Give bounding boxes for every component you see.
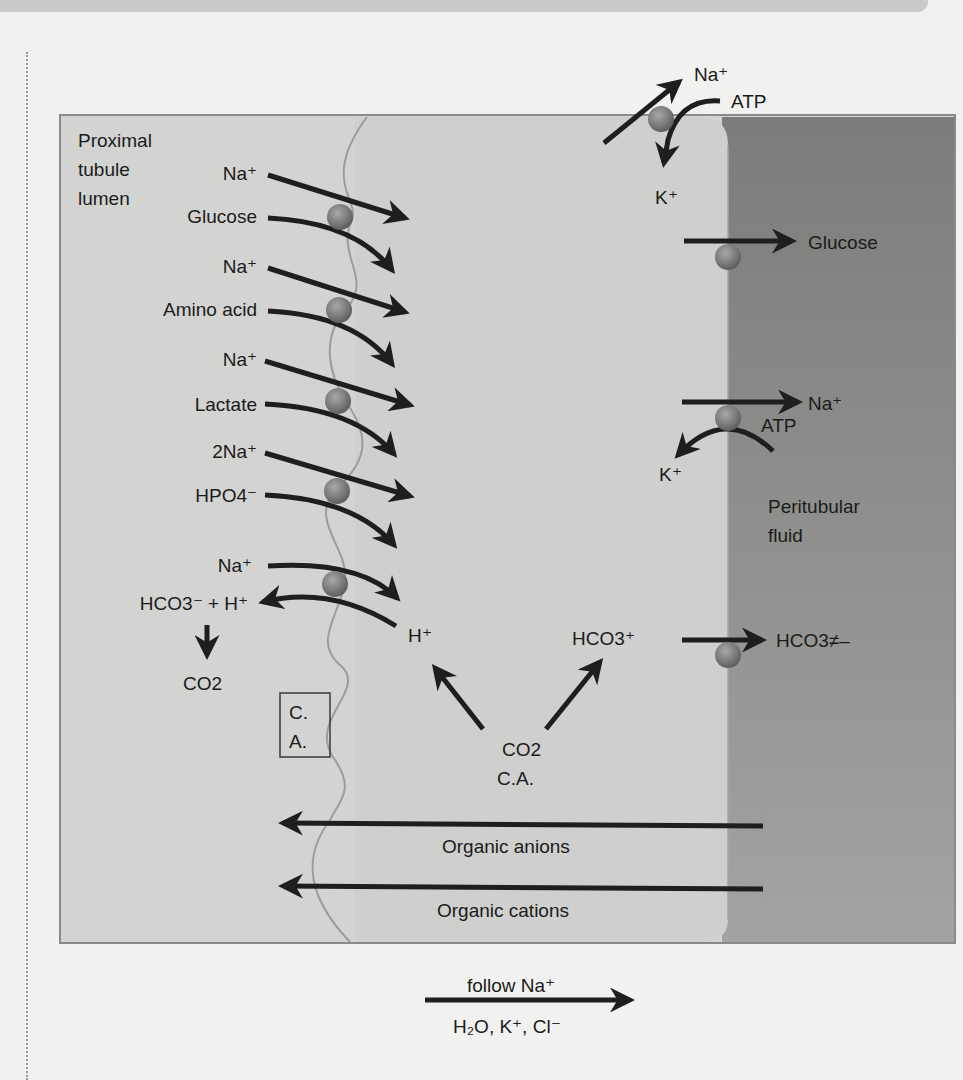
svg-text:fluid: fluid	[768, 525, 803, 546]
svg-text:Na⁺: Na⁺	[223, 256, 257, 277]
svg-text:HCO3⁺: HCO3⁺	[572, 628, 635, 649]
carrier-protein	[715, 244, 741, 270]
carrier-protein	[324, 478, 350, 504]
svg-text:Amino acid: Amino acid	[163, 299, 257, 320]
svg-text:CO2: CO2	[502, 739, 541, 760]
svg-text:H₂O, K⁺, Cl⁻: H₂O, K⁺, Cl⁻	[453, 1016, 561, 1037]
svg-text:tubule: tubule	[78, 159, 130, 180]
svg-text:ATP: ATP	[761, 415, 797, 436]
svg-text:H⁺: H⁺	[408, 625, 432, 646]
svg-text:Proximal: Proximal	[78, 130, 152, 151]
atpase-pump	[648, 106, 674, 132]
svg-text:HCO3⁻ + H⁺: HCO3⁻ + H⁺	[140, 593, 248, 614]
svg-text:Na⁺: Na⁺	[218, 555, 252, 576]
svg-text:Na⁺: Na⁺	[808, 393, 842, 414]
svg-text:Glucose: Glucose	[808, 232, 878, 253]
svg-text:C.: C.	[289, 702, 308, 723]
svg-text:follow Na⁺: follow Na⁺	[467, 975, 555, 996]
svg-text:C.A.: C.A.	[497, 768, 534, 789]
svg-text:Na⁺: Na⁺	[223, 163, 257, 184]
svg-text:Na⁺: Na⁺	[694, 64, 728, 85]
svg-text:HCO3≠–: HCO3≠–	[776, 630, 850, 651]
svg-text:Na⁺: Na⁺	[223, 349, 257, 370]
proximal-tubule-diagram: Proximal tubule lumen Peritubular fluid …	[0, 0, 963, 1080]
svg-text:HPO4⁻: HPO4⁻	[195, 485, 257, 506]
svg-text:Lactate: Lactate	[195, 394, 257, 415]
paracellular-transport: follow Na⁺ H₂O, K⁺, Cl⁻	[425, 975, 630, 1037]
carrier-protein	[327, 204, 353, 230]
svg-text:K⁺: K⁺	[659, 464, 682, 485]
carrier-protein	[325, 388, 351, 414]
svg-text:Organic cations: Organic cations	[437, 900, 569, 921]
svg-text:Glucose: Glucose	[187, 206, 257, 227]
carrier-protein	[326, 297, 352, 323]
epithelial-cell	[355, 117, 728, 942]
svg-text:CO2: CO2	[183, 673, 222, 694]
carrier-protein	[715, 642, 741, 668]
svg-text:A.: A.	[289, 731, 307, 752]
svg-text:ATP: ATP	[731, 91, 767, 112]
svg-text:Peritubular: Peritubular	[768, 496, 861, 517]
svg-text:lumen: lumen	[78, 188, 130, 209]
svg-text:2Na⁺: 2Na⁺	[212, 441, 257, 462]
carrier-protein	[322, 571, 348, 597]
svg-text:Organic anions: Organic anions	[442, 836, 570, 857]
atpase-pump	[715, 405, 741, 431]
svg-text:K⁺: K⁺	[655, 187, 678, 208]
